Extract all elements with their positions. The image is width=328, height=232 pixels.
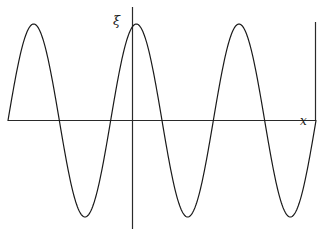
y-axis-label: ξ	[113, 14, 120, 27]
x-axis-label: x	[300, 115, 307, 127]
sine-wave-plot	[0, 0, 328, 232]
figure-container: ξ x	[0, 0, 328, 232]
